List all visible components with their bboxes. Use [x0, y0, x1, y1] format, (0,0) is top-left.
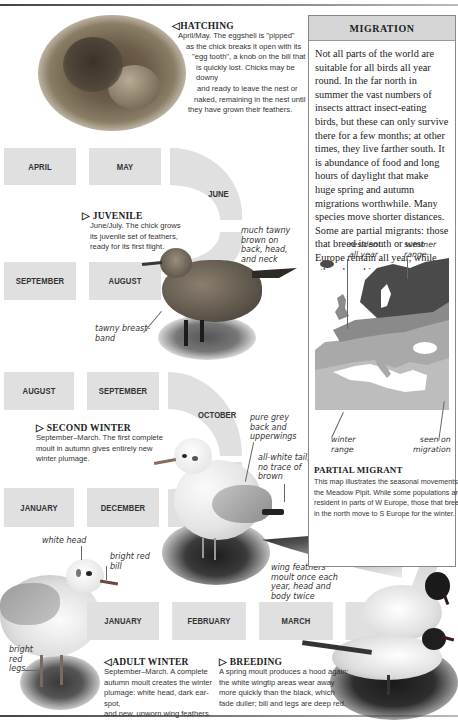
month-february: FEBRUARY: [172, 602, 246, 640]
juvenile-heading-text: JUVENILE: [93, 211, 143, 221]
hatching-block: ◁HATCHING April/May. The eggshell is "pi…: [172, 20, 307, 116]
hatching-line-4: and ready to leave the nest or: [197, 84, 307, 95]
chick-shape: [63, 37, 123, 92]
breeding-line-0: A spring moult produces a hood again;: [219, 667, 349, 678]
arrow-left-icon: ◁: [172, 21, 180, 31]
month-may: MAY: [89, 148, 161, 185]
month-january-2: JANUARY: [87, 602, 159, 640]
map-label-migration: seen on migration: [413, 435, 451, 454]
top-rule: [0, 4, 458, 6]
hatching-line-6: they have grown their feathers.: [188, 105, 307, 116]
adult-winter-line-0: September–March. A complete: [104, 667, 224, 678]
adult-winter-block: ◁ADULT WINTER September–March. A complet…: [104, 656, 224, 720]
arrow-right-icon: ▷: [219, 657, 227, 667]
breeding-block: ▷ BREEDING A spring moult produces a hoo…: [219, 656, 349, 709]
note-red-bill: bright red bill: [110, 552, 150, 571]
hatching-line-3: is quickly lost. Chicks may be downy: [196, 63, 307, 84]
breeding-line-3: fade duller; bill and legs are deep red.: [219, 699, 349, 710]
leader-red-bill: [106, 566, 107, 580]
month-december: DECEMBER: [87, 488, 159, 527]
note-breast-band: tawny breast- band: [95, 324, 150, 343]
arrow-right-icon: ▷: [36, 423, 44, 433]
partial-migrant-caption: This map illustrates the seasonal moveme…: [314, 477, 454, 519]
juvenile-line-0: June/July. The chick grows: [90, 221, 202, 232]
europe-map: [315, 250, 449, 428]
juvenile-heading: ▷ JUVENILE: [82, 210, 202, 221]
note-white-head: white head: [42, 536, 86, 546]
month-june: JUNE: [208, 189, 228, 199]
breeding-line-2: more quickly than the black, which: [219, 688, 349, 699]
breeding-heading-text: BREEDING: [230, 657, 282, 667]
adult-winter-heading: ◁ADULT WINTER: [104, 656, 224, 667]
hatching-line-1: as the chick breaks it open with its: [186, 42, 307, 53]
month-september-2: SEPTEMBER: [87, 372, 159, 410]
month-september: SEPTEMBER: [4, 262, 76, 300]
month-october: OCTOBER: [198, 410, 236, 420]
breeding-line-1: the white wingtip areas wear away: [219, 678, 349, 689]
leader-white-head: [81, 546, 82, 560]
adult-winter-line-3: and new, unworn wing feathers.: [104, 709, 224, 720]
hatching-line-5: naked, remaining in the nest until: [194, 95, 307, 106]
hatching-heading-text: HATCHING: [180, 21, 234, 31]
adult-winter-line-1: autumn moult creates the winter: [104, 678, 224, 689]
adult-winter-heading-text: ADULT WINTER: [112, 657, 188, 667]
second-winter-heading-text: SECOND WINTER: [47, 423, 131, 433]
arrow-right-icon: ▷: [82, 211, 90, 221]
hatching-line-2: "egg tooth", a knob on the bill that: [192, 52, 307, 63]
leader-resident: [347, 259, 348, 329]
note-white-tail: all-white tail, no trace of brown: [258, 453, 310, 482]
breeding-heading: ▷ BREEDING: [219, 656, 349, 667]
hatching-heading: ◁HATCHING: [172, 20, 307, 31]
month-january: JANUARY: [4, 488, 74, 527]
migration-title: MIGRATION: [309, 16, 455, 41]
note-tawny-brown: much tawny brown on back, head, and neck: [241, 226, 290, 264]
adult-winter-line-2: plumage: white head, dark ear-spot,: [104, 688, 224, 709]
leader-red-legs: [25, 670, 39, 671]
leader-summer: [407, 259, 408, 279]
note-wing-feathers: wing feathers moult once each year, head…: [271, 563, 338, 601]
hatching-nest-photo: [38, 15, 186, 131]
month-april: APRIL: [4, 148, 76, 185]
arrow-left-icon: ◁: [104, 657, 112, 667]
migration-panel: MIGRATION Not all parts of the world are…: [308, 15, 456, 567]
leader-white-tail: [284, 484, 285, 502]
map-label-winter: winter range: [331, 435, 356, 454]
month-august-2: AUGUST: [4, 372, 74, 410]
note-grey-back: pure grey back and upperwings: [250, 413, 297, 442]
partial-migrant-heading: PARTIAL MIGRANT: [314, 465, 403, 475]
hatching-line-0: April/May. The eggshell is "pipped": [178, 31, 307, 42]
